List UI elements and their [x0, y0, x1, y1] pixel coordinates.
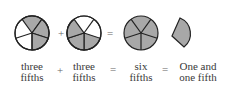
label-fifths-3: fifths — [127, 72, 155, 83]
equals-sign-bottom-1: = — [110, 63, 116, 75]
label-one-fifth: one fifth — [174, 72, 222, 83]
circle-six-fifths-whole — [124, 16, 158, 50]
plus-sign-bottom: + — [57, 64, 63, 76]
one-fifth-wedge — [172, 18, 190, 47]
circle-three-fifths-b — [67, 16, 101, 50]
equals-sign-bottom-2: = — [162, 63, 168, 75]
equals-sign-top: = — [107, 27, 113, 39]
plus-sign-top: + — [58, 27, 64, 39]
label-fifths-1: fifths — [18, 72, 46, 83]
circle-three-fifths-a — [15, 16, 49, 50]
label-fifths-2: fifths — [70, 72, 98, 83]
